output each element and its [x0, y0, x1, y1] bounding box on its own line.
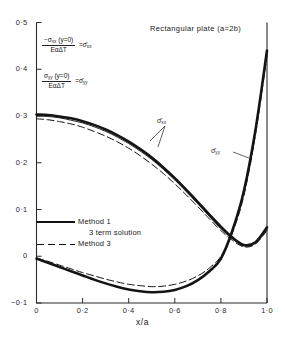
plot-frame	[37, 23, 268, 304]
y-axis-tick-label: 0·1	[0, 205, 28, 214]
sigma-yy-curve-label: σ̄yy	[211, 147, 220, 155]
thermal-stress-chart-figure: Rectangular plate (a=2b) −σxx (y=0) EαΔT…	[0, 0, 285, 339]
frac-yy-numerator-sub: yy	[48, 75, 53, 80]
x-axis-title: x/a	[0, 317, 285, 327]
curve-thick-solid	[37, 115, 268, 246]
x-axis-tick-label: 0	[23, 306, 51, 315]
frac-xx-numerator-arg: (y=0)	[58, 36, 73, 43]
legend-label-method-1: Method 1	[78, 217, 111, 226]
curve-dashed	[37, 55, 268, 286]
frac-xx-result-sub: xx	[87, 44, 92, 49]
y-axis-tick-label: 0·2	[0, 158, 28, 167]
frac-yy-numerator-arg: (y=0)	[54, 72, 69, 79]
sigma-xx-curve-label: σ̄xx	[157, 117, 166, 125]
frac-yy-denominator: EαΔT	[42, 81, 71, 90]
frac-xx-numerator-sub: xx	[52, 39, 57, 44]
x-axis-tick-label: 0·6	[161, 306, 189, 315]
legend-swatch-solid-icon	[37, 221, 75, 223]
legend-label-3-term-solution: 3 term solution	[89, 228, 141, 237]
annotation-leader-line	[233, 152, 249, 158]
y-axis-tick-label: 0	[0, 251, 28, 260]
frac-xx-denominator: EαΔT	[42, 45, 75, 54]
legend-swatch-dashed-icon	[37, 244, 75, 245]
y-axis-tick-label: 0·4	[0, 64, 28, 73]
sigma-xx-definition: −σxx (y=0) EαΔT =σ̄xx	[42, 36, 91, 54]
x-axis-tick-label: 0·2	[69, 306, 97, 315]
x-axis-tick-label: 1·0	[253, 306, 281, 315]
frac-xx-numerator: −σ	[44, 36, 52, 43]
y-axis-tick-label: 0·5	[0, 18, 28, 27]
x-axis-tick-label: 0·8	[207, 306, 235, 315]
sigma-yy-definition: σyy (y=0) EαΔT =σ̄yy	[42, 72, 88, 90]
y-axis-tick-label: 0·3	[0, 111, 28, 120]
legend-label-method-3: Method 3	[78, 239, 111, 248]
chart-title: Rectangular plate (a=2b)	[150, 24, 241, 33]
frac-yy-result-sub: yy	[83, 80, 88, 85]
tag-yy-sub: yy	[215, 150, 220, 155]
x-axis-tick-label: 0·4	[115, 306, 143, 315]
tag-xx-sub: xx	[161, 120, 166, 125]
